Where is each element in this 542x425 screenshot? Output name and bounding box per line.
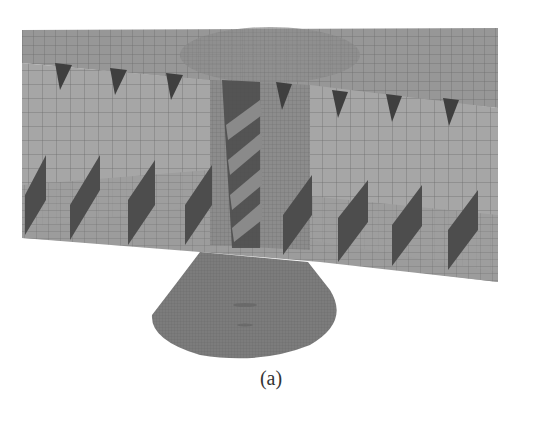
conical-base <box>152 252 337 358</box>
fem-mesh-figure <box>0 0 542 425</box>
figure-caption: (a) <box>0 367 542 390</box>
